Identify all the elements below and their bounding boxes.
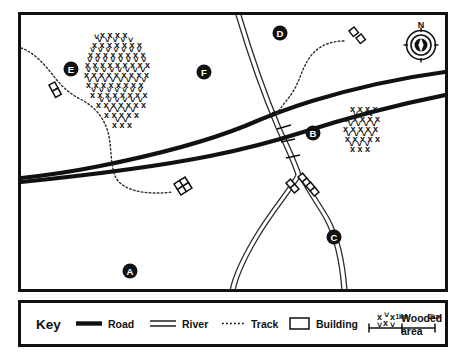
svg-text:˅: ˅ bbox=[390, 320, 396, 330]
map-point-A[interactable]: A bbox=[123, 264, 138, 279]
map-point-D-label: D bbox=[277, 28, 284, 39]
svg-text:˅ ˅ ˅ ˅: ˅ ˅ ˅ ˅ bbox=[346, 129, 375, 139]
svg-text:˅ ˅ ˅ ˅ ˅ ˅: ˅ ˅ ˅ ˅ ˅ ˅ bbox=[99, 95, 144, 105]
svg-text:˅ ˅ ˅: ˅ ˅ ˅ bbox=[349, 139, 371, 149]
map-canvas: x x x x ˅ x x x x x x x x x x x x x x x … bbox=[0, 0, 465, 363]
map-point-F[interactable]: F bbox=[197, 65, 212, 80]
map-point-D[interactable]: D bbox=[273, 26, 288, 41]
svg-text:˅ ˅ ˅ ˅ ˅ ˅ ˅ ˅: ˅ ˅ ˅ ˅ ˅ ˅ ˅ ˅ bbox=[87, 55, 147, 65]
building-swatch-icon bbox=[290, 318, 309, 329]
map-point-B-label: B bbox=[310, 128, 317, 139]
svg-text:˅ ˅ ˅ ˅: ˅ ˅ ˅ ˅ bbox=[348, 119, 377, 129]
key-label-building: Building bbox=[316, 318, 358, 330]
svg-text:˅ ˅ ˅ ˅ ˅ ˅ ˅ ˅: ˅ ˅ ˅ ˅ ˅ ˅ ˅ ˅ bbox=[86, 65, 146, 75]
key-entry-building: Building bbox=[290, 318, 358, 330]
svg-text:˅ ˅ ˅ ˅ ˅ ˅ ˅: ˅ ˅ ˅ ˅ ˅ ˅ ˅ bbox=[91, 85, 144, 95]
svg-text:˅ ˅ ˅ ˅ ˅ ˅ ˅ ˅: ˅ ˅ ˅ ˅ ˅ ˅ ˅ ˅ bbox=[87, 75, 147, 85]
svg-text:˅ ˅ ˅ ˅ ˅ ˅ ˅: ˅ ˅ ˅ ˅ ˅ ˅ ˅ bbox=[90, 45, 143, 55]
map-point-F-label: F bbox=[201, 67, 207, 78]
map-page: x x x x ˅ x x x x x x x x x x x x x x x … bbox=[0, 0, 465, 363]
map-point-C[interactable]: C bbox=[327, 230, 342, 245]
map-point-A-label: A bbox=[127, 266, 134, 277]
key-label-wooded-line2: area bbox=[401, 325, 423, 337]
svg-text:˅ ˅ ˅ ˅: ˅ ˅ ˅ ˅ bbox=[107, 105, 136, 115]
svg-text:˅ ˅: ˅ ˅ bbox=[115, 115, 129, 125]
key-label-road: Road bbox=[108, 318, 134, 330]
svg-text:˅ ˅ ˅ ˅ ˅: ˅ ˅ ˅ ˅ ˅ bbox=[97, 35, 134, 45]
key-label-track: Track bbox=[251, 318, 279, 330]
svg-text:x: x bbox=[383, 318, 388, 328]
key-label-wooded-line1: Wooded bbox=[401, 312, 442, 324]
key-label-river: River bbox=[182, 318, 208, 330]
map-point-C-label: C bbox=[331, 232, 338, 243]
wooded-swatch-icon: x ˅ x ˅ x ˅ bbox=[377, 310, 396, 330]
map-point-E[interactable]: E bbox=[64, 62, 79, 77]
key-title: Key bbox=[36, 317, 61, 332]
map-point-B[interactable]: B bbox=[306, 126, 321, 141]
map-point-E-label: E bbox=[68, 64, 74, 75]
svg-text:˅ ˅ ˅: ˅ ˅ ˅ bbox=[353, 109, 375, 119]
